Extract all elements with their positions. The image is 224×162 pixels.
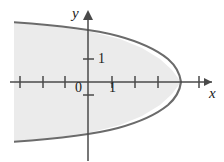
y-axis-label: y [72,6,79,21]
y-unit-tick-label: 1 [98,52,105,66]
x-unit-tick-label: 1 [109,81,116,95]
y-axis-arrowhead [83,10,93,20]
parabola-figure: y x 0 1 1 [0,0,224,162]
origin-label: 0 [75,81,82,95]
x-axis-label: x [209,86,216,101]
